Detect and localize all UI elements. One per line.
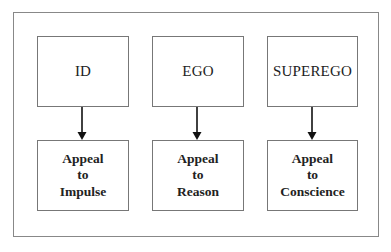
appeal-to-conscience-box: Appeal to Conscience [267, 140, 358, 211]
superego-label: SUPEREGO [273, 63, 352, 80]
appeal-to-reason-box: Appeal to Reason [152, 140, 244, 211]
superego-box: SUPEREGO [267, 36, 358, 107]
id-label: ID [75, 63, 91, 80]
line: to [60, 167, 107, 184]
arrow-down-icon [76, 107, 88, 140]
line: Appeal [60, 151, 107, 168]
line: to [177, 167, 219, 184]
line: to [280, 167, 345, 184]
ego-box: EGO [152, 36, 244, 107]
line: Appeal [177, 151, 219, 168]
arrow-down-icon [306, 107, 318, 140]
appeal-to-impulse-box: Appeal to Impulse [37, 140, 129, 211]
arrow-down-icon [191, 107, 203, 140]
id-box: ID [37, 36, 129, 107]
ego-label: EGO [182, 63, 213, 80]
line: Conscience [280, 184, 345, 201]
line: Appeal [280, 151, 345, 168]
line: Impulse [60, 184, 107, 201]
line: Reason [177, 184, 219, 201]
